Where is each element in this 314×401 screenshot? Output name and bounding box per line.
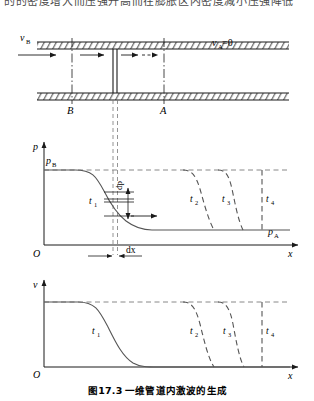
velocity-y-axis-label: v <box>33 279 38 290</box>
velocity-curve-t2 <box>183 302 214 367</box>
pressure-x-axis-label: x <box>287 248 293 259</box>
rest-velocity-value: =0 <box>222 37 233 48</box>
velocity-label-t4: t <box>266 326 269 336</box>
station-b-label: B <box>67 105 74 116</box>
dp-label: dp <box>114 181 124 191</box>
pressure-y-axis-label: p <box>32 141 38 152</box>
pressure-low-label: p <box>267 226 273 237</box>
fluid-element-marks <box>104 192 134 216</box>
pipe-lower-wall <box>37 93 289 100</box>
pressure-low-subscript: A <box>274 232 279 239</box>
pressure-high-subscript: B <box>52 161 57 168</box>
velocity-label-t4-sub: 4 <box>271 331 275 338</box>
pressure-label-t4-sub: 4 <box>271 199 275 206</box>
velocity-label-t3: t <box>223 326 226 336</box>
velocity-x-axis-label: x <box>287 370 293 381</box>
pressure-label-t1: t <box>89 196 92 206</box>
rest-velocity-label: v <box>212 37 217 48</box>
figure-container: 的的密度增大而压强升高而在膨胀区内密度减小压强降低 <box>0 0 314 401</box>
pressure-label-t1-sub: 1 <box>94 201 97 208</box>
velocity-label-t1: t <box>92 326 95 336</box>
inlet-velocity-label: v <box>20 32 25 43</box>
caption-number: 图17.3 <box>88 385 122 396</box>
pressure-label-t4: t <box>266 194 269 204</box>
pressure-label-t2: t <box>190 194 193 204</box>
pressure-label-t2-sub: 2 <box>195 199 198 206</box>
velocity-curve-t1 <box>44 302 290 367</box>
piston-plate <box>113 49 117 93</box>
velocity-label-t2-sub: 2 <box>195 331 198 338</box>
velocity-label-t1-sub: 1 <box>97 331 100 338</box>
pipe-upper-wall <box>37 42 289 49</box>
velocity-label-t3-sub: 3 <box>228 331 231 338</box>
velocity-origin-label: O <box>33 369 40 380</box>
pressure-high-label: p <box>45 155 51 166</box>
velocity-label-t2: t <box>190 326 193 336</box>
caption-title: 一维管道内激波的生成 <box>125 385 227 396</box>
pipe-diagram: v B v A =0 B A <box>18 32 289 255</box>
figure-caption: 图17.3 一维管道内激波的生成 <box>88 385 227 396</box>
inlet-velocity-subscript: B <box>26 38 31 45</box>
pressure-curve-t2 <box>183 170 214 230</box>
figure-17-3-drawing: v B v A =0 B A p x O p B p A <box>0 0 314 401</box>
pressure-curve-t1 <box>44 170 290 230</box>
pressure-chart: p x O p B p A t 1 t 2 t 3 <box>32 141 298 259</box>
station-a-label: A <box>159 105 167 116</box>
velocity-chart: v x O t 1 t 2 t 3 t 4 <box>33 279 298 381</box>
pressure-origin-label: O <box>33 248 40 259</box>
projection-lines <box>113 100 118 255</box>
dx-label: dx <box>126 245 136 255</box>
pressure-label-t3-sub: 3 <box>227 199 230 206</box>
pressure-label-t3: t <box>222 194 225 204</box>
